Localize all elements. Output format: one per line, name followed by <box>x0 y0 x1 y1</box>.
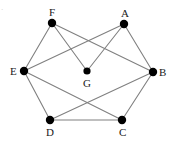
node-c[interactable] <box>118 116 126 124</box>
node-label-a: A <box>121 8 129 19</box>
edge-f-g <box>52 23 87 71</box>
edge-e-d <box>24 71 50 120</box>
node-label-g: G <box>83 78 91 89</box>
graph-diagram: · ABCDEFG <box>0 0 169 142</box>
node-label-c: C <box>119 127 126 138</box>
edge-f-e <box>24 23 52 71</box>
edge-a-e <box>24 24 124 71</box>
node-g[interactable] <box>83 67 90 74</box>
node-f[interactable] <box>48 19 56 27</box>
edge-e-c <box>24 71 122 120</box>
node-label-f: F <box>49 7 55 18</box>
node-b[interactable] <box>149 68 157 76</box>
edge-a-g <box>87 24 124 71</box>
graph-canvas <box>0 0 169 142</box>
node-e[interactable] <box>20 67 28 75</box>
node-label-e: E <box>10 66 17 77</box>
node-layer <box>20 19 157 124</box>
node-label-d: D <box>46 127 54 138</box>
node-d[interactable] <box>46 116 54 124</box>
node-label-b: B <box>159 67 166 78</box>
node-a[interactable] <box>120 20 128 28</box>
